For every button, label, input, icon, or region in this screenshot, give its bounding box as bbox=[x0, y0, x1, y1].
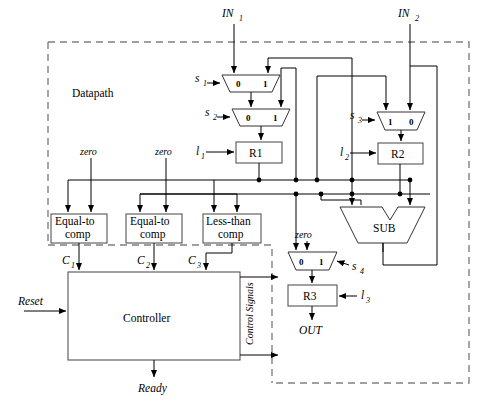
junction-dot bbox=[398, 192, 403, 197]
c2-label-sub: 2 bbox=[146, 261, 150, 270]
c1-label: C bbox=[62, 254, 70, 266]
c3-label: C bbox=[188, 254, 196, 266]
out-label: OUT bbox=[299, 324, 324, 336]
zero-label-left: zero bbox=[79, 146, 97, 157]
mux-s3-port-1: 1 bbox=[388, 117, 393, 127]
wire-to-sub-a2 bbox=[321, 194, 361, 205]
mux-s1-select-label: s bbox=[195, 72, 200, 84]
mux-s3-port-0: 0 bbox=[409, 117, 414, 127]
c1-label-sub: 1 bbox=[71, 261, 75, 270]
equal-to-comp-2[interactable]: Equal-to comp bbox=[126, 214, 182, 243]
mux-s4-port-0: 0 bbox=[299, 257, 304, 267]
in1-signal: IN 1 bbox=[221, 7, 243, 73]
c2-signal: C 2 bbox=[137, 243, 154, 270]
out-signal: OUT bbox=[299, 306, 324, 336]
junction-dot bbox=[294, 192, 299, 197]
junction-dot bbox=[408, 178, 413, 183]
datapath-label: Datapath bbox=[72, 87, 114, 100]
lt-comp-line2: comp bbox=[218, 228, 244, 241]
c1-signal: C 1 bbox=[62, 243, 79, 270]
mux-s3[interactable]: 1 0 s 3 bbox=[350, 109, 425, 130]
mux-s4-port-1: 1 bbox=[319, 257, 324, 267]
register-r2-label: R2 bbox=[391, 148, 405, 160]
mux-s1-port-0: 0 bbox=[236, 79, 241, 89]
controller-label: Controller bbox=[123, 312, 170, 324]
r3-load-label: l bbox=[361, 289, 364, 301]
mux-s3-select-sub: 3 bbox=[357, 116, 362, 125]
junction-dot bbox=[294, 178, 299, 183]
mux-s2-port-0: 0 bbox=[246, 113, 251, 123]
in2-signal: IN 2 bbox=[397, 7, 419, 110]
r1-load-label: l bbox=[196, 145, 199, 157]
zero-constant-left: zero bbox=[79, 146, 97, 212]
in2-label-sub: 2 bbox=[415, 14, 419, 23]
register-r3-label: R3 bbox=[303, 290, 317, 302]
junction-dot bbox=[257, 178, 262, 183]
zero-label-mid: zero bbox=[154, 146, 172, 157]
mux-s2-select-sub: 2 bbox=[213, 113, 217, 122]
mux-s4-select-sub: 4 bbox=[360, 267, 364, 276]
eq-comp-2-line2: comp bbox=[140, 228, 166, 241]
less-than-comp[interactable]: Less-than comp bbox=[203, 214, 261, 243]
c3-signal: C 3 bbox=[188, 243, 232, 270]
zero-constant-mid: zero bbox=[154, 146, 172, 212]
mux-s1[interactable]: 0 1 s 1 bbox=[195, 72, 280, 92]
datapath-controller-diagram: Datapath IN 1 IN 2 0 1 s 1 0 1 s 2 bbox=[0, 0, 488, 410]
mux-s2-port-1: 1 bbox=[273, 113, 278, 123]
in1-label-sub: 1 bbox=[239, 14, 243, 23]
controller-block[interactable]: Controller bbox=[68, 272, 240, 360]
zero-label-sub: zero bbox=[294, 229, 312, 240]
mux-s2[interactable]: 0 1 s 2 bbox=[205, 106, 290, 126]
eq-comp-2-line1: Equal-to bbox=[130, 215, 170, 228]
ready-label: Ready bbox=[137, 382, 168, 395]
equal-to-comp-1[interactable]: Equal-to comp bbox=[51, 214, 107, 243]
reset-label: Reset bbox=[17, 295, 44, 307]
zero-constant-sub: zero bbox=[294, 229, 312, 250]
subtractor-label: SUB bbox=[373, 222, 396, 234]
c2-label: C bbox=[137, 254, 145, 266]
r2-load-sub: 2 bbox=[345, 153, 349, 162]
mux-s4-select-label: s bbox=[352, 260, 357, 272]
lt-comp-line1: Less-than bbox=[206, 215, 251, 227]
ready-signal: Ready bbox=[137, 360, 168, 395]
mux-s1-select-sub: 1 bbox=[203, 79, 207, 88]
mux-s4[interactable]: 0 1 s 4 bbox=[288, 252, 364, 276]
mux-s1-port-1: 1 bbox=[263, 79, 268, 89]
mux-s3-select-label: s bbox=[350, 109, 355, 121]
control-signals-label: Control Signals bbox=[244, 282, 255, 345]
eq-comp-1-line1: Equal-to bbox=[55, 215, 95, 228]
in2-label: IN bbox=[397, 7, 411, 19]
junction-dot bbox=[315, 178, 320, 183]
register-r1-label: R1 bbox=[249, 147, 263, 159]
reset-signal: Reset bbox=[17, 295, 66, 311]
eq-comp-1-line2: comp bbox=[65, 228, 91, 241]
register-r3[interactable]: R3 l 3 bbox=[288, 285, 370, 306]
r1-load-sub: 1 bbox=[201, 152, 205, 161]
register-r1[interactable]: R1 l 1 bbox=[196, 142, 282, 163]
in1-label: IN bbox=[221, 7, 235, 19]
subtractor[interactable]: SUB bbox=[340, 207, 425, 243]
r2-load-label: l bbox=[340, 146, 343, 158]
c3-label-sub: 3 bbox=[196, 261, 201, 270]
r3-load-sub: 3 bbox=[365, 296, 370, 305]
mux-s2-select-label: s bbox=[205, 106, 210, 118]
junction-dot bbox=[350, 178, 355, 183]
